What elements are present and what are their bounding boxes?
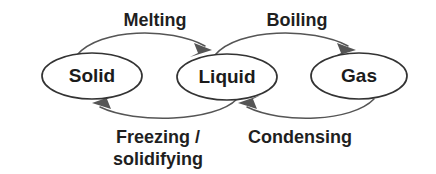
diagram-canvas: Solid Liquid Gas Melting Boiling Freezin… [0,0,436,174]
edge-label-melting: Melting [124,10,187,30]
node-gas[interactable]: Gas [311,53,407,99]
node-solid[interactable]: Solid [42,53,142,99]
node-liquid[interactable]: Liquid [177,54,277,100]
node-gas-label: Gas [341,65,377,86]
node-solid-label: Solid [69,65,115,86]
edge-label-freezing-solidifying-line-1: Freezing / [116,127,200,147]
edge-label-freezing-solidifying: Freezing / solidifying [113,127,203,169]
edge-label-freezing-solidifying-line-2: solidifying [113,149,203,169]
edge-condensing-path [247,99,374,118]
node-liquid-label: Liquid [199,66,256,87]
edge-label-condensing: Condensing [248,127,352,147]
edge-freezing-solidifying-path [100,99,237,118]
states-of-matter-diagram: Solid Liquid Gas Melting Boiling Freezin… [0,0,436,174]
edge-melting-path [77,33,205,55]
edge-boiling [215,33,356,57]
edge-boiling-path [215,33,348,55]
edge-label-boiling: Boiling [267,10,328,30]
